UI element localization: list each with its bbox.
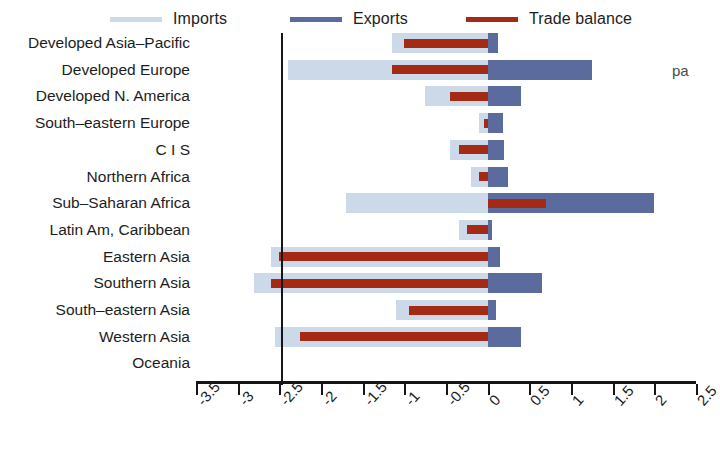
bar-trade-balance [279,252,487,261]
bar-trade-balance [409,306,488,315]
legend-label-trade-balance: Trade balance [529,8,632,30]
category-axis-labels: Developed Asia–PacificDeveloped EuropeDe… [0,33,196,381]
legend-item-exports: Exports [290,8,408,30]
category-label: Northern Africa [0,169,190,185]
bar-exports [488,247,501,267]
legend-item-imports: Imports [110,8,227,30]
x-axis-tick-label: 1 [569,392,586,409]
bar-trade-balance [488,199,546,208]
category-label: Developed Asia–Pacific [0,35,190,51]
bar-trade-balance [300,332,488,341]
category-label: Eastern Asia [0,249,190,265]
chart-legend: Imports Exports Trade balance [0,8,696,30]
bar-trade-balance [459,145,488,154]
x-axis-tick-label: -1 [402,388,423,409]
bar-exports [488,140,505,160]
bar-exports [488,113,503,133]
category-label: Sub–Saharan Africa [0,195,190,211]
legend-swatch-imports [110,17,162,22]
category-label: South–eastern Europe [0,115,190,131]
x-axis-tick-label: 2 [652,392,669,409]
bar-exports [488,327,521,347]
clipped-header-text [150,0,510,7]
category-label: Southern Asia [0,275,190,291]
legend-item-trade-balance: Trade balance [466,8,632,30]
bar-trade-balance [479,172,487,181]
category-label: Developed N. America [0,88,190,104]
bar-trade-balance [271,279,488,288]
bar-exports [488,86,521,106]
plot-area [196,33,696,381]
legend-swatch-exports [290,17,342,22]
legend-label-imports: Imports [173,8,227,30]
zero-reference-line [281,33,283,385]
category-label: C I S [0,142,190,158]
category-label: Western Asia [0,329,190,345]
legend-swatch-trade-balance [466,17,518,22]
category-label: Oceania [0,355,190,371]
category-label: South–eastern Asia [0,302,190,318]
bar-exports [488,273,542,293]
bar-exports [488,167,509,187]
x-axis-tick-label: -2 [319,388,340,409]
x-axis-tick-label: 0 [486,392,503,409]
bar-trade-balance [484,119,488,128]
legend-label-exports: Exports [353,8,408,30]
bar-trade-balance [404,39,487,48]
category-label: Latin Am, Caribbean [0,222,190,238]
bar-exports [488,300,496,320]
category-label: Developed Europe [0,62,190,78]
bar-trade-balance [450,92,488,101]
clipped-side-note: pa [672,62,696,79]
bar-exports [488,220,492,240]
bar-trade-balance [392,65,488,74]
bar-exports [488,33,498,53]
bar-imports [346,193,488,213]
bar-exports [488,60,592,80]
bar-trade-balance [467,225,488,234]
